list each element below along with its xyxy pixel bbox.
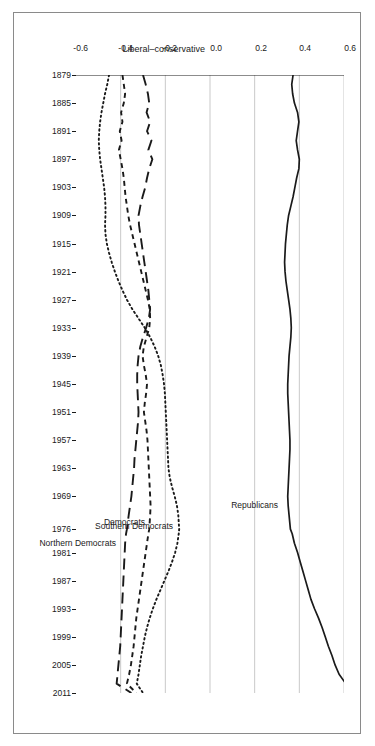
x-tick-mark bbox=[72, 553, 76, 554]
x-tick-1909: 1909 bbox=[52, 210, 71, 220]
x-tick-mark bbox=[72, 187, 76, 188]
y-axis-title: Liberal–conservative bbox=[122, 44, 205, 54]
x-tick-mark bbox=[72, 665, 76, 666]
x-tick-mark bbox=[72, 496, 76, 497]
series-label-republicans: Republicans bbox=[231, 500, 278, 510]
plot-canvas bbox=[76, 75, 344, 693]
series-label-northern-democrats: Northern Democrats bbox=[40, 539, 117, 549]
x-tick-mark bbox=[72, 103, 76, 104]
x-tick-1921: 1921 bbox=[52, 267, 71, 277]
x-tick-1957: 1957 bbox=[52, 435, 71, 445]
series-label-southern-democrats: Southern Democrats bbox=[95, 521, 173, 531]
x-tick-mark bbox=[72, 272, 76, 273]
x-tick-mark bbox=[72, 412, 76, 413]
x-tick-mark bbox=[72, 581, 76, 582]
x-tick-1939: 1939 bbox=[52, 351, 71, 361]
x-tick-mark bbox=[72, 300, 76, 301]
plot-area bbox=[76, 75, 344, 693]
x-tick-1945: 1945 bbox=[52, 379, 71, 389]
x-tick-mark bbox=[72, 693, 76, 694]
y-tick-0.4: 0.4 bbox=[277, 43, 311, 53]
x-tick-mark bbox=[72, 131, 76, 132]
y-tick--0.6: -0.6 bbox=[54, 43, 88, 53]
figure-frame: 1879188518911897190319091915192119271933… bbox=[13, 12, 361, 734]
x-tick-1915: 1915 bbox=[52, 239, 71, 249]
x-tick-mark bbox=[72, 75, 76, 76]
x-tick-1951: 1951 bbox=[52, 407, 71, 417]
x-tick-1976: 1976 bbox=[52, 524, 71, 534]
line-chart-svg bbox=[76, 75, 344, 693]
x-tick-1903: 1903 bbox=[52, 182, 71, 192]
x-tick-1981: 1981 bbox=[52, 548, 71, 558]
figure: 1879188518911897190319091915192119271933… bbox=[0, 0, 375, 746]
x-tick-mark bbox=[72, 215, 76, 216]
x-tick-mark bbox=[72, 328, 76, 329]
x-tick-1993: 1993 bbox=[52, 604, 71, 614]
x-tick-mark bbox=[72, 440, 76, 441]
x-tick-1933: 1933 bbox=[52, 323, 71, 333]
series-line-republicans bbox=[285, 75, 344, 693]
x-tick-mark bbox=[72, 384, 76, 385]
x-tick-1927: 1927 bbox=[52, 295, 71, 305]
y-tick-0.6: 0.6 bbox=[322, 43, 356, 53]
x-tick-mark bbox=[72, 637, 76, 638]
x-tick-1879: 1879 bbox=[52, 70, 71, 80]
x-tick-1987: 1987 bbox=[52, 576, 71, 586]
x-tick-1897: 1897 bbox=[52, 154, 71, 164]
series-line-democrats bbox=[119, 75, 151, 693]
x-tick-mark bbox=[72, 529, 76, 530]
x-tick-1963: 1963 bbox=[52, 463, 71, 473]
x-tick-1999: 1999 bbox=[52, 632, 71, 642]
x-tick-1885: 1885 bbox=[52, 98, 71, 108]
x-tick-mark bbox=[72, 159, 76, 160]
x-tick-mark bbox=[72, 468, 76, 469]
x-tick-2005: 2005 bbox=[52, 660, 71, 670]
x-tick-mark bbox=[72, 356, 76, 357]
x-tick-mark bbox=[72, 244, 76, 245]
x-tick-mark bbox=[72, 609, 76, 610]
y-tick-0.2: 0.2 bbox=[233, 43, 267, 53]
rotated-plot-stage: 1879188518911897190319091915192119271933… bbox=[22, 23, 352, 723]
x-tick-1891: 1891 bbox=[52, 126, 71, 136]
x-tick-2011: 2011 bbox=[53, 688, 71, 698]
x-tick-1969: 1969 bbox=[52, 491, 71, 501]
